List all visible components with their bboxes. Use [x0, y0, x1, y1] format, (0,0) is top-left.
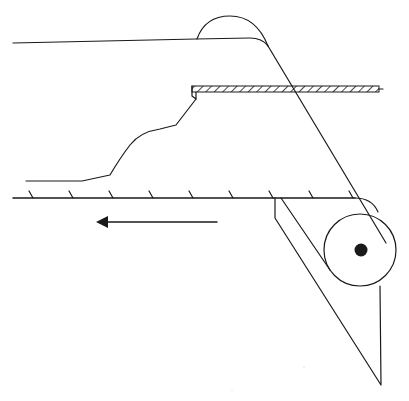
hatched-plate: [192, 86, 383, 99]
inclined-belt: [268, 46, 386, 243]
roller-axle: [355, 244, 368, 257]
direction-arrow: [96, 216, 217, 228]
speck: [231, 389, 232, 390]
hump-arc: [197, 16, 268, 46]
upper-belt-line: [13, 38, 268, 46]
speck: [303, 366, 304, 367]
material-profile: [26, 99, 196, 181]
conveyor-diagram: [0, 0, 409, 401]
ground-hatch-marks: [29, 191, 353, 198]
scraper-blade: [275, 198, 381, 385]
